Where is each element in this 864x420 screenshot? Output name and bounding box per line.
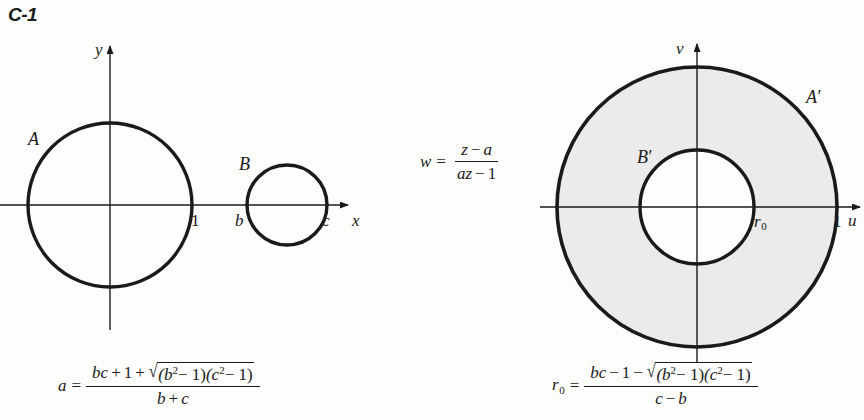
formula-r0: r0 = bc−1−√(b2− 1)(c2− 1) c−b bbox=[552, 362, 758, 409]
left-y-axis-label: y bbox=[95, 41, 103, 58]
formula-r0-rad-right-rest: − 1) bbox=[723, 365, 751, 384]
formula-r0-num-op1: − bbox=[606, 363, 622, 382]
formula-a-rad-right-rest: − 1) bbox=[225, 365, 253, 384]
formula-a-sqrt: √(b2− 1)(c2− 1) bbox=[148, 362, 254, 385]
formula-r0-lhs-sub: 0 bbox=[559, 384, 565, 396]
formula-r0-radical-sign: √ bbox=[647, 361, 656, 384]
label-b-prime-letter: B bbox=[637, 147, 648, 167]
formula-r0-rad-right: (c bbox=[704, 365, 717, 384]
left-x-axis-label: x bbox=[352, 212, 360, 229]
label-circle-b-prime: B′ bbox=[637, 148, 652, 166]
transform-den-term1: az bbox=[457, 164, 472, 183]
formula-a-equals: = bbox=[72, 376, 82, 396]
right-tick-r0: r0 bbox=[754, 213, 767, 232]
transform-num-term1: z bbox=[461, 140, 468, 159]
transform-lhs: w bbox=[420, 152, 431, 172]
transform-num-op: − bbox=[468, 140, 484, 159]
formula-r0-rad-left: (b bbox=[656, 365, 670, 384]
prime-mark-a: ′ bbox=[818, 87, 822, 107]
formula-r0-num-term1: bc bbox=[590, 363, 606, 382]
formula-r0-radicand: (b2− 1)(c2− 1) bbox=[655, 362, 751, 385]
label-a-prime-letter: A bbox=[806, 87, 817, 107]
left-tick-b: b bbox=[235, 212, 244, 229]
formula-a-num-op2: + bbox=[132, 363, 148, 382]
formula-a-rad-right: (c bbox=[206, 365, 219, 384]
formula-a-num-term2: 1 bbox=[124, 363, 133, 382]
label-circle-a-prime: A′ bbox=[806, 88, 821, 106]
label-circle-b: B bbox=[239, 155, 250, 173]
r0-letter: r bbox=[754, 212, 761, 231]
formula-r0-numerator: bc−1−√(b2− 1)(c2− 1) bbox=[584, 362, 758, 387]
formula-r0-rad-left-rest: − 1) bbox=[676, 365, 704, 384]
left-panel-geometry bbox=[0, 46, 348, 330]
formula-a-rad-left-rest: − 1) bbox=[178, 365, 206, 384]
circle-b-prime bbox=[640, 150, 754, 264]
formula-a-radicand: (b2− 1)(c2− 1) bbox=[157, 362, 253, 385]
formula-a-denominator: b+c bbox=[151, 387, 195, 409]
formula-a-radical-sign: √ bbox=[149, 361, 158, 384]
formula-r0-equals: = bbox=[570, 376, 580, 396]
figure-label: C-1 bbox=[8, 4, 37, 26]
transform-den-term2: 1 bbox=[488, 164, 497, 183]
formula-r0-num-op2: − bbox=[630, 363, 646, 382]
formula-a-num-term1: bc bbox=[92, 363, 108, 382]
prime-mark-b: ′ bbox=[649, 147, 653, 167]
formula-r0-sqrt: √(b2− 1)(c2− 1) bbox=[646, 362, 752, 385]
r0-subscript: 0 bbox=[761, 220, 767, 232]
formula-a-num-op1: + bbox=[108, 363, 124, 382]
formula-a: a = bc+1+√(b2− 1)(c2− 1) b+c bbox=[58, 362, 260, 409]
transform-den-op: − bbox=[472, 164, 488, 183]
formula-r0-den-term2: b bbox=[678, 389, 687, 408]
left-tick-c: c bbox=[322, 212, 330, 229]
figure-c1: C-1 bbox=[0, 0, 864, 420]
figure-geometry bbox=[0, 0, 864, 420]
formula-r0-denominator: c−b bbox=[649, 387, 693, 409]
formula-r0-lhs: r0 bbox=[552, 375, 565, 395]
circle-a bbox=[28, 123, 192, 287]
right-u-axis-label: u bbox=[848, 212, 857, 229]
transform-fraction: z−a az−1 bbox=[451, 140, 502, 184]
formula-a-fraction: bc+1+√(b2− 1)(c2− 1) b+c bbox=[86, 362, 260, 409]
label-circle-a: A bbox=[28, 130, 39, 148]
formula-a-den-term1: b bbox=[157, 389, 166, 408]
formula-r0-den-term1: c bbox=[655, 389, 663, 408]
circle-b bbox=[247, 165, 327, 245]
formula-r0-lhs-letter: r bbox=[552, 375, 559, 394]
transform-equals: = bbox=[436, 152, 446, 172]
transform-equation: w = z−a az−1 bbox=[420, 140, 502, 184]
right-v-axis-label: v bbox=[676, 40, 684, 57]
transform-denominator: az−1 bbox=[451, 162, 502, 184]
formula-r0-den-op: − bbox=[663, 389, 679, 408]
left-tick-unit: 1 bbox=[191, 212, 200, 229]
annulus-shading bbox=[557, 67, 837, 347]
circle-a-prime bbox=[557, 67, 837, 347]
right-tick-unit: 1 bbox=[833, 213, 842, 230]
formula-a-rad-left: (b bbox=[158, 365, 172, 384]
formula-a-numerator: bc+1+√(b2− 1)(c2− 1) bbox=[86, 362, 260, 387]
formula-a-den-term2: c bbox=[181, 389, 189, 408]
formula-r0-fraction: bc−1−√(b2− 1)(c2− 1) c−b bbox=[584, 362, 758, 409]
transform-num-term2: a bbox=[483, 140, 492, 159]
transform-numerator: z−a bbox=[455, 140, 498, 162]
formula-a-lhs: a bbox=[58, 376, 67, 396]
formula-a-den-op: + bbox=[166, 389, 182, 408]
